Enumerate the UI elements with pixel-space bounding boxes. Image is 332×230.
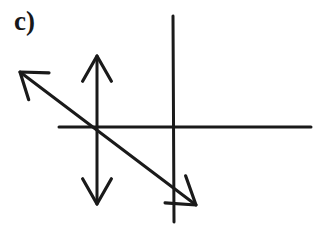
paper-background — [0, 0, 332, 230]
figure-container: c) — [0, 0, 332, 230]
panel-label: c) — [14, 8, 35, 35]
vector-diagram-canvas — [0, 0, 332, 230]
secondary-vertical-line — [173, 16, 174, 222]
